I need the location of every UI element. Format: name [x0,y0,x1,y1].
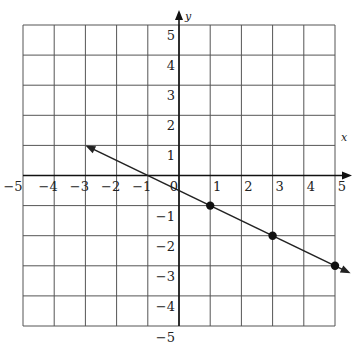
x-tick-label: −5 [3,179,22,194]
y-tick-label: −5 [156,330,175,345]
y-tick-label: −3 [156,269,175,284]
y-tick-label: −4 [156,299,175,314]
x-tick-label: 2 [244,179,252,194]
data-point [268,232,276,240]
x-tick-labels: −5−4−3−2−1012345 [3,179,346,194]
coordinate-plane: −5−4−3−2−1012345 54321−1−2−3−4−5 x y [0,0,360,347]
x-tick-label: 4 [307,179,315,194]
x-axis-label: x [341,131,348,144]
y-axis-label: y [184,10,192,23]
y-tick-label: 1 [167,148,175,163]
y-tick-label: 3 [167,88,175,103]
line-arrow-end-icon [340,265,351,273]
x-tick-label: 1 [213,179,221,194]
x-tick-label: −2 [101,179,120,194]
x-tick-label: −3 [70,179,89,194]
line-arrow-start-icon [85,145,96,153]
x-tick-label: 3 [275,179,283,194]
y-tick-label: −2 [156,239,175,254]
data-line [85,145,350,273]
y-tick-label: 4 [167,58,175,73]
y-tick-label: 5 [167,28,175,43]
x-tick-label: 5 [338,179,346,194]
y-axis-arrow-icon [175,10,183,20]
data-point [331,262,339,270]
axes [23,10,352,326]
y-tick-label: −1 [156,209,175,224]
y-tick-label: 2 [167,118,175,133]
plotted-line [93,149,344,270]
data-point [206,201,214,209]
x-tick-label: −4 [39,179,58,194]
x-tick-label: −1 [132,179,151,194]
